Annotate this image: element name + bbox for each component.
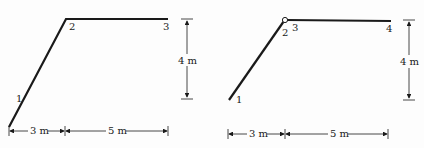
right-dim-b-label: 5 m (330, 128, 350, 139)
left-member-polyline (9, 19, 168, 127)
left-dim-vertical-label: 4 m (178, 55, 198, 66)
right-node-1-label: 1 (236, 94, 242, 105)
left-figure: 1 2 3 4 m 3 m 5 m (9, 19, 198, 136)
left-node-3-label: 3 (163, 21, 169, 32)
right-dim-a-label: 3 m (249, 128, 269, 139)
diagram-canvas: 1 2 3 4 m 3 m 5 m 1 2 3 4 4 m (0, 0, 424, 148)
right-figure: 1 2 3 4 4 m 3 m 5 m (228, 17, 420, 139)
right-node-2-label: 2 (282, 27, 288, 38)
left-node-2-label: 2 (69, 21, 75, 32)
hinge-icon (282, 17, 287, 22)
right-member-1-2 (229, 21, 284, 100)
left-node-1-label: 1 (16, 93, 22, 104)
right-node-3-label: 3 (292, 22, 298, 33)
right-node-4-label: 4 (386, 23, 392, 34)
left-dim-a-label: 3 m (30, 125, 50, 136)
left-dim-b-label: 5 m (108, 125, 128, 136)
right-member-3-4 (287, 20, 391, 21)
right-dim-vertical-label: 4 m (400, 56, 420, 67)
